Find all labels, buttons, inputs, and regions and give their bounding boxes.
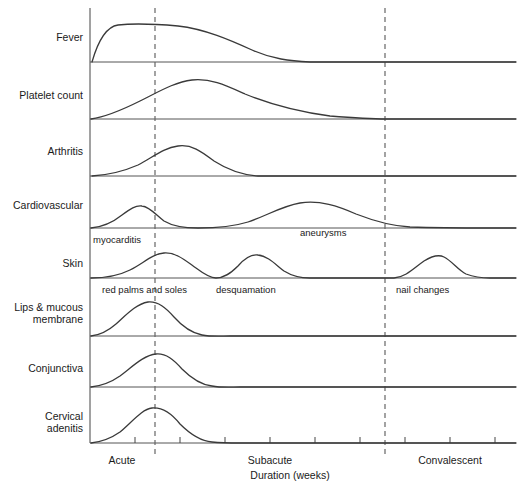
row-label-fever: Fever <box>0 31 83 43</box>
curve-fever <box>92 24 516 62</box>
kawasaki-disease-timeline-chart: Fever Platelet count Arthritis Cardiovas… <box>0 0 520 486</box>
row-label-conjunctiva: Conjunctiva <box>0 362 83 374</box>
phase-label-subacute: Subacute <box>230 454 310 466</box>
x-axis-ticks <box>135 437 495 443</box>
row-label-platelet-count: Platelet count <box>0 89 83 101</box>
row-label-skin: Skin <box>0 257 83 269</box>
annotation-red-palms-and-soles: red palms and soles <box>102 284 187 295</box>
row-label-arthritis: Arthritis <box>0 145 83 157</box>
phase-divider-lines <box>155 8 385 458</box>
phase-label-convalescent: Convalescent <box>400 454 500 466</box>
row-label-cardiovascular: Cardiovascular <box>0 199 83 211</box>
annotation-myocarditis: myocarditis <box>93 234 141 245</box>
annotation-aneurysms: aneurysms <box>300 227 346 238</box>
phase-label-acute: Acute <box>82 454 162 466</box>
x-axis-title: Duration (weeks) <box>230 469 350 481</box>
annotation-nail-changes: nail changes <box>396 284 449 295</box>
row-label-cervical-adenitis: Cervical adenitis <box>0 410 83 434</box>
annotation-desquamation: desquamation <box>216 284 276 295</box>
curve-skin <box>91 253 516 278</box>
row-label-lips-mucous-membrane: Lips & mucous membrane <box>0 301 83 325</box>
curve-arthritis <box>92 146 516 176</box>
